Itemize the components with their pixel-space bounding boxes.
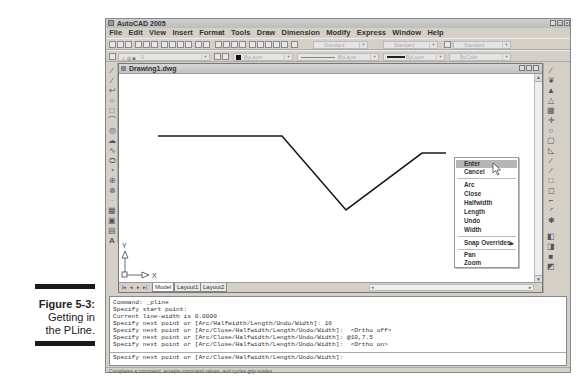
menu-window[interactable]: Window bbox=[389, 28, 424, 38]
hatch-icon[interactable]: ▦ bbox=[108, 207, 116, 215]
zoom-window-icon[interactable] bbox=[231, 41, 238, 48]
construction-line-icon[interactable]: ⁄ bbox=[108, 77, 116, 85]
offset-icon[interactable]: △ bbox=[547, 97, 555, 105]
close-button[interactable]: × bbox=[564, 20, 570, 26]
break-at-point-icon[interactable]: □ bbox=[547, 177, 555, 185]
dim-style-dropdown[interactable]: Standard▼ bbox=[383, 41, 438, 49]
menu-dimension[interactable]: Dimension bbox=[278, 28, 323, 38]
bring-to-front-icon[interactable]: ◨ bbox=[547, 243, 555, 251]
menu-item-width[interactable]: Width bbox=[456, 226, 517, 234]
menu-file[interactable]: File bbox=[106, 28, 125, 38]
publish-icon[interactable] bbox=[151, 41, 158, 48]
pan-realtime-icon[interactable] bbox=[215, 41, 222, 48]
text-style-dropdown[interactable]: Standard▼ bbox=[313, 41, 368, 49]
menu-format[interactable]: Format bbox=[196, 28, 228, 38]
linetype-dropdown[interactable]: ByLayer▼ bbox=[297, 53, 379, 61]
drawing-restore-button[interactable] bbox=[526, 65, 532, 71]
multiline-text-icon[interactable]: A bbox=[108, 237, 116, 245]
menu-item-zoom[interactable]: Zoom bbox=[456, 259, 517, 267]
sheet-set-icon[interactable] bbox=[273, 41, 280, 48]
horizontal-scrollbar[interactable]: ◂ ▸ bbox=[369, 284, 534, 291]
polyline-icon[interactable]: ↩ bbox=[108, 87, 116, 95]
chamfer-icon[interactable]: ⌐ bbox=[547, 197, 555, 205]
break-icon[interactable]: ◻ bbox=[547, 187, 555, 195]
stretch-icon[interactable]: ◺ bbox=[547, 147, 555, 155]
explode-icon[interactable]: ✱ bbox=[547, 217, 555, 225]
menu-help[interactable]: Help bbox=[424, 28, 447, 38]
menu-edit[interactable]: Edit bbox=[125, 28, 146, 38]
arc-icon[interactable]: ⌒ bbox=[108, 117, 116, 125]
ellipse-icon[interactable]: ⬭ bbox=[108, 157, 116, 165]
prev-tab-button[interactable]: ◂ bbox=[128, 284, 134, 290]
region-icon[interactable]: ▣ bbox=[108, 217, 116, 225]
mirror-icon[interactable]: ▲ bbox=[547, 87, 555, 95]
menu-draw[interactable]: Draw bbox=[254, 28, 279, 38]
color-dropdown[interactable]: ByLayer▼ bbox=[233, 53, 293, 61]
tab-model[interactable]: Model bbox=[152, 283, 174, 292]
design-center-icon[interactable] bbox=[257, 41, 264, 48]
polygon-icon[interactable]: ○ bbox=[108, 97, 116, 105]
scroll-right-arrow[interactable]: ▸ bbox=[529, 284, 532, 290]
menu-item-snap-overrides[interactable]: Snap Overrides▶ bbox=[456, 239, 517, 247]
table-style-dropdown[interactable]: Standard▼ bbox=[453, 41, 511, 49]
copy-object-icon[interactable]: ❦ bbox=[547, 77, 555, 85]
scroll-up-arrow[interactable]: ▲ bbox=[535, 74, 542, 82]
command-window[interactable]: Command: _pline Specify start point: Cur… bbox=[109, 296, 567, 366]
tab-layout2[interactable]: Layout2 bbox=[200, 283, 227, 292]
trim-icon[interactable]: ⁄ bbox=[547, 157, 555, 165]
menu-view[interactable]: View bbox=[146, 28, 169, 38]
command-input[interactable]: Specify next point or [Arc/Close/Halfwid… bbox=[110, 352, 566, 362]
vertical-scrollbar[interactable]: ▲ ▼ bbox=[534, 74, 542, 283]
menu-express[interactable]: Express bbox=[354, 28, 390, 38]
layer-previous-icon[interactable] bbox=[222, 53, 229, 60]
menu-item-enter[interactable]: Enter bbox=[456, 160, 517, 168]
menu-insert[interactable]: Insert bbox=[169, 28, 196, 38]
menu-item-arc[interactable]: Arc bbox=[456, 181, 517, 189]
cut-icon[interactable] bbox=[161, 41, 168, 48]
last-tab-button[interactable]: ▸| bbox=[142, 284, 148, 290]
menu-item-pan[interactable]: Pan bbox=[456, 251, 517, 259]
layer-dropdown[interactable]: ☼ ◎ ■0▼ bbox=[118, 53, 210, 61]
make-block-icon[interactable]: ⊗ bbox=[108, 187, 116, 195]
menu-item-cancel[interactable]: Cancel bbox=[456, 168, 517, 176]
menu-item-length[interactable]: Length bbox=[456, 208, 517, 216]
line-icon[interactable]: ⁄ bbox=[108, 67, 116, 75]
new-icon[interactable] bbox=[109, 41, 116, 48]
plot-icon[interactable] bbox=[135, 41, 142, 48]
spline-icon[interactable]: ∿ bbox=[108, 147, 116, 155]
scroll-left-arrow[interactable]: ◂ bbox=[371, 284, 374, 290]
drawing-close-button[interactable] bbox=[533, 65, 539, 71]
menu-modify[interactable]: Modify bbox=[323, 28, 354, 38]
plot-preview-icon[interactable] bbox=[143, 41, 150, 48]
bring-above-icon[interactable]: ◩ bbox=[547, 263, 555, 271]
move-icon[interactable]: ✛ bbox=[547, 117, 555, 125]
extend-icon[interactable]: ⁄ bbox=[547, 167, 555, 175]
first-tab-button[interactable]: |◂ bbox=[121, 284, 127, 290]
fillet-icon[interactable]: ◜ bbox=[547, 207, 555, 215]
menu-item-undo[interactable]: Undo bbox=[456, 217, 517, 225]
insert-block-icon[interactable]: ⊕ bbox=[108, 177, 116, 185]
zoom-realtime-icon[interactable] bbox=[223, 41, 230, 48]
table-icon[interactable]: ▤ bbox=[108, 227, 116, 235]
next-tab-button[interactable]: ▸ bbox=[135, 284, 141, 290]
markup-icon[interactable] bbox=[281, 41, 288, 48]
erase-icon[interactable]: ⁄ bbox=[547, 67, 555, 75]
circle-icon[interactable]: ◎ bbox=[108, 127, 116, 135]
layer-manager-icon[interactable] bbox=[109, 53, 116, 60]
menu-tools[interactable]: Tools bbox=[228, 28, 254, 38]
tab-layout1[interactable]: Layout1 bbox=[174, 283, 201, 292]
copy-icon[interactable] bbox=[169, 41, 176, 48]
ellipse-arc-icon[interactable]: ◔ bbox=[108, 167, 116, 175]
send-to-back-icon[interactable]: ■ bbox=[547, 253, 555, 261]
save-icon[interactable] bbox=[125, 41, 132, 48]
make-object-layer-current-icon[interactable] bbox=[214, 53, 221, 60]
lineweight-dropdown[interactable]: ByLayer▼ bbox=[383, 53, 445, 61]
help-icon[interactable] bbox=[291, 41, 298, 48]
point-icon[interactable]: · bbox=[108, 197, 116, 205]
match-properties-icon[interactable] bbox=[185, 41, 192, 48]
rectangle-icon[interactable]: □ bbox=[108, 107, 116, 115]
properties-icon[interactable] bbox=[249, 41, 256, 48]
array-icon[interactable]: ▦ bbox=[547, 107, 555, 115]
menu-item-halfwidth[interactable]: Halfwidth bbox=[456, 199, 517, 207]
plot-style-dropdown[interactable]: ByColor▼ bbox=[449, 53, 511, 61]
